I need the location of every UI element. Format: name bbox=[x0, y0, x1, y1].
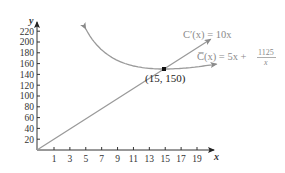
y-tick-label: 60 bbox=[25, 113, 35, 123]
y-tick-label: 160 bbox=[20, 59, 35, 69]
x-tick-label: 11 bbox=[129, 154, 138, 164]
marginal-cost-label: C′(x) = 10x bbox=[183, 29, 232, 41]
x-tick-label: 7 bbox=[99, 154, 104, 164]
marginal-cost-line bbox=[37, 39, 211, 150]
y-tick-label: 220 bbox=[20, 27, 35, 37]
average-cost-label-denominator: x bbox=[263, 58, 268, 67]
y-tick-label: 20 bbox=[25, 135, 35, 145]
x-tick-label: 19 bbox=[192, 154, 202, 164]
y-tick-label: 100 bbox=[20, 91, 35, 101]
y-tick-label: 140 bbox=[20, 70, 35, 80]
x-tick-label: 15 bbox=[160, 154, 170, 164]
x-tick-label: 5 bbox=[83, 154, 88, 164]
average-cost-label-numerator: 1125 bbox=[258, 48, 274, 57]
x-tick-label: 1 bbox=[52, 154, 57, 164]
y-tick-label: 180 bbox=[20, 48, 35, 58]
cost-chart: y x 20406080100120140160180200220 135791… bbox=[0, 0, 285, 173]
y-tick-label: 200 bbox=[20, 37, 35, 47]
y-tick-label: 80 bbox=[25, 102, 35, 112]
x-tick-label: 9 bbox=[115, 154, 120, 164]
y-tick-label: 120 bbox=[20, 81, 35, 91]
x-tick-label: 3 bbox=[68, 154, 73, 164]
y-axis-label: y bbox=[28, 15, 34, 26]
x-tick-label: 13 bbox=[145, 154, 155, 164]
average-cost-label: C̅(x) = 5x + bbox=[197, 51, 247, 63]
x-tick-label: 17 bbox=[176, 154, 186, 164]
y-tick-label: 40 bbox=[25, 124, 35, 134]
intersection-point-marker bbox=[162, 67, 166, 71]
intersection-point-label: (15, 150) bbox=[145, 72, 186, 85]
x-axis-label: x bbox=[213, 151, 219, 162]
